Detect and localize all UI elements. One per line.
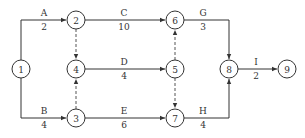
node-1: 1	[12, 60, 30, 78]
activity-i-label: I	[254, 57, 258, 67]
network-diagram: A 2 B 4 C 10 D 4 E 6 G 3 H 4 I 2 1 2 3 4…	[0, 0, 305, 138]
activity-d-duration: 4	[121, 71, 127, 81]
node-9: 9	[278, 60, 296, 78]
svg-text:1: 1	[18, 65, 24, 75]
activity-c-duration: 10	[118, 22, 130, 32]
activity-c-label: C	[121, 8, 128, 18]
activity-i-duration: 2	[253, 71, 259, 81]
node-7: 7	[166, 109, 184, 127]
svg-text:8: 8	[226, 65, 232, 75]
node-3: 3	[67, 109, 85, 127]
svg-text:7: 7	[172, 114, 178, 124]
node-6: 6	[166, 11, 184, 29]
activity-d-label: D	[120, 57, 127, 67]
activity-g-label: G	[199, 8, 206, 18]
activity-e-label: E	[121, 106, 128, 116]
node-5: 5	[166, 60, 184, 78]
svg-text:4: 4	[73, 65, 79, 75]
svg-text:6: 6	[172, 16, 178, 26]
activity-g-arrow	[184, 20, 229, 59]
activity-a-label: A	[40, 8, 48, 18]
svg-text:9: 9	[284, 65, 290, 75]
activity-b-label: B	[41, 106, 48, 116]
node-8: 8	[220, 60, 238, 78]
svg-text:2: 2	[73, 16, 79, 26]
activity-h-label: H	[199, 106, 207, 116]
activity-h-duration: 4	[200, 120, 206, 130]
activity-a-duration: 2	[41, 22, 47, 32]
svg-text:3: 3	[73, 114, 79, 124]
svg-text:5: 5	[172, 65, 178, 75]
activity-g-duration: 3	[200, 22, 206, 32]
activity-e-duration: 6	[121, 120, 127, 130]
activity-b-duration: 4	[41, 120, 47, 130]
node-2: 2	[67, 11, 85, 29]
node-4: 4	[67, 60, 85, 78]
